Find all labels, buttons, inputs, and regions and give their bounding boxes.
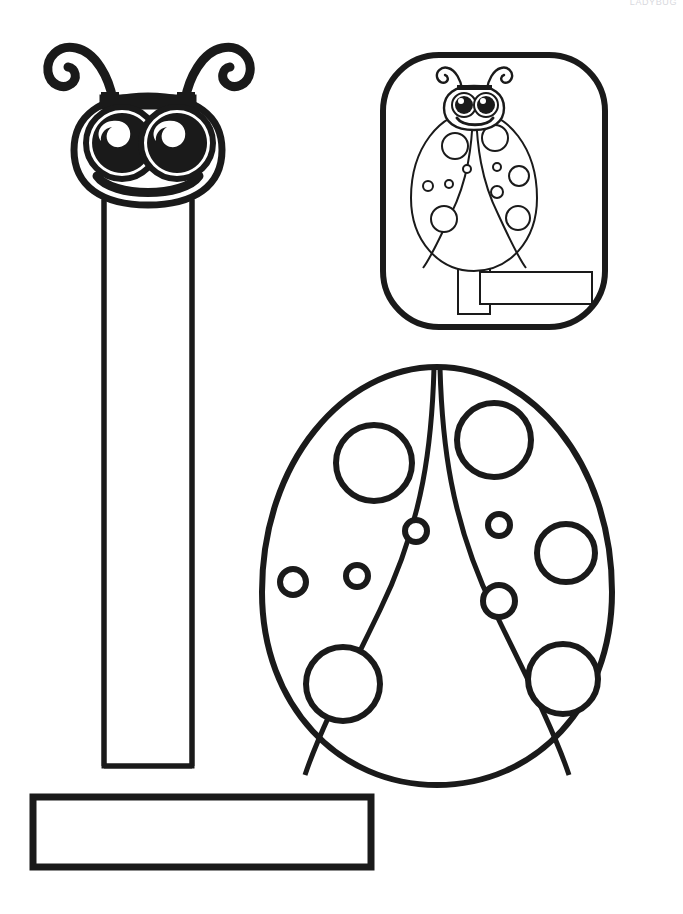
spot-small — [423, 181, 433, 191]
spot-small — [405, 520, 427, 542]
thumbnail-eye-left-highlight — [458, 98, 464, 104]
spot-large — [442, 133, 468, 159]
spot-small — [493, 163, 501, 171]
spot-large — [306, 647, 380, 721]
spot-large — [431, 206, 457, 232]
spot-large — [528, 644, 598, 714]
craft-template-page: LADYBUG — [0, 0, 683, 914]
thumbnail-eye-right-pupil — [477, 96, 495, 114]
spot-small — [280, 569, 306, 595]
spot-small — [346, 565, 368, 587]
spot-small — [445, 180, 453, 188]
spot-large — [506, 206, 530, 230]
assembly-preview-thumbnail — [383, 55, 605, 327]
thumbnail-eye-right-highlight — [480, 98, 486, 104]
spot-small — [463, 165, 471, 173]
spot-small — [483, 585, 515, 617]
ladybug-body-piece — [262, 367, 612, 785]
head-brow-notch-right — [177, 92, 195, 100]
spot-large — [509, 166, 529, 186]
thumbnail-eye-left-pupil — [455, 96, 473, 114]
spot-large — [336, 425, 412, 501]
head-brow-notch-left — [101, 92, 119, 100]
horizontal-handle-strip — [33, 797, 371, 867]
thumbnail-horizontal-strip — [480, 272, 592, 304]
spot-large — [537, 524, 595, 582]
spot-small — [488, 514, 510, 536]
spot-small — [491, 186, 503, 198]
craft-template-artwork — [0, 0, 683, 914]
thumbnail-head-brow-bar — [457, 85, 492, 90]
spot-large — [457, 403, 531, 477]
vertical-strip — [104, 196, 192, 766]
ladybug-head-piece — [48, 47, 250, 766]
